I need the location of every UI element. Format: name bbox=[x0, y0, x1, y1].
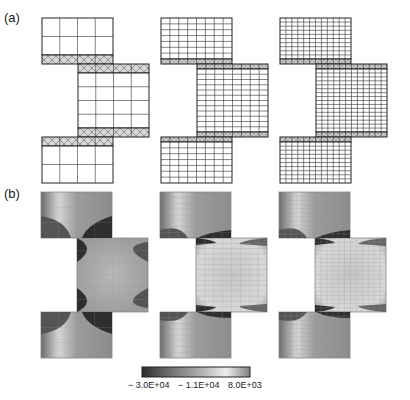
contour-fine bbox=[279, 192, 386, 358]
colorbar-label-min: − 3.0E+04 bbox=[128, 380, 170, 390]
contour-panel-b bbox=[41, 192, 386, 358]
colorbar-label-mid: − 1.1E+04 bbox=[178, 380, 220, 390]
mesh-medium bbox=[161, 18, 268, 183]
colorbar bbox=[142, 367, 250, 377]
contour-coarse bbox=[41, 192, 148, 358]
figure-canvas bbox=[0, 0, 410, 400]
contour-medium bbox=[160, 192, 267, 358]
mesh-panel-a bbox=[42, 18, 387, 183]
mesh-coarse bbox=[42, 18, 149, 183]
colorbar-label-max: 8.0E+03 bbox=[228, 380, 262, 390]
mesh-fine bbox=[280, 18, 387, 183]
